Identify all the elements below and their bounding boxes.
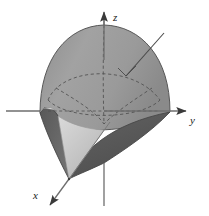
y-axis-label: y xyxy=(189,114,195,126)
dome-surface xyxy=(40,25,170,130)
figure-container: z y x xyxy=(0,0,209,216)
x-axis-label: x xyxy=(32,189,38,201)
lower-vertex-point xyxy=(68,178,70,180)
x-axis-positive xyxy=(50,179,69,205)
surface-plot-svg: z y x xyxy=(0,0,209,216)
z-axis-label: z xyxy=(112,11,118,23)
